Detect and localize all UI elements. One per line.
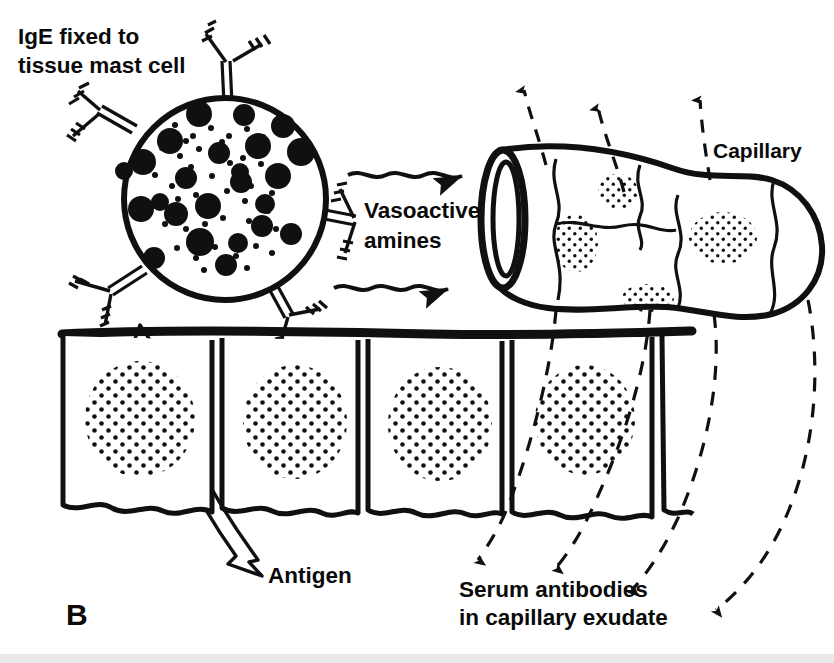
vasoactive-amines-label-line2: amines: [364, 228, 442, 253]
mast-cell-granule: [157, 128, 183, 154]
wavy-arrow: [348, 173, 462, 178]
serum-antibodies-label-line2: in capillary exudate: [459, 605, 668, 630]
mast-cell-granule: [208, 142, 230, 164]
endothelial-nucleus: [598, 174, 638, 210]
endothelial-nucleus: [689, 212, 757, 264]
mast-cell-granule: [115, 162, 133, 180]
epithelial-nucleus: [388, 367, 492, 481]
mast-cell-granule: [186, 101, 212, 127]
mast-cell-granule: [280, 223, 302, 245]
mast-cell-granule: [130, 149, 156, 175]
mast-cell-label-line1: IgE fixed to: [18, 24, 139, 49]
ige-receptor-icon: [268, 283, 327, 347]
panel-label: B: [66, 598, 88, 631]
ige-receptor-icon: [202, 21, 270, 104]
capillary-label: Capillary: [713, 139, 802, 162]
figure-container: IgE fixed to tissue mast cell Vasoactive…: [0, 0, 834, 663]
mast-cell-granule: [143, 247, 165, 269]
mast-cell-granule: [215, 254, 237, 276]
epithelial-nucleus: [535, 365, 635, 475]
wavy-arrow: [334, 286, 448, 291]
mast-cell-granule: [128, 196, 154, 222]
vasoactive-amines-label-line1: Vasoactive: [364, 198, 480, 223]
epithelial-cell: [662, 336, 693, 514]
ige-receptor-icon: [69, 266, 147, 326]
endothelial-nucleus: [554, 214, 598, 272]
mast-cell-granule: [230, 171, 252, 193]
mast-cell-granule: [255, 194, 275, 214]
ige-receptor-icon: [67, 83, 137, 141]
epithelium-group: [62, 331, 693, 518]
hypersensitivity-diagram: IgE fixed to tissue mast cell Vasoactive…: [0, 0, 834, 663]
capillary-lumen-inner: [493, 162, 519, 276]
mast-cell-granule: [164, 202, 188, 226]
efflux-arrow-up: [700, 100, 710, 180]
mast-cell-label-line2: tissue mast cell: [18, 53, 186, 78]
mast-cell-granule: [245, 133, 271, 159]
capillary-group: [481, 90, 822, 317]
mast-cell-granule: [175, 167, 197, 189]
mast-cell-granule: [271, 114, 295, 138]
exudate-arrow: [716, 300, 815, 610]
epithelial-nucleus: [85, 361, 195, 477]
antigen-label: Antigen: [268, 563, 352, 588]
mast-cell-granule: [195, 193, 221, 219]
mast-cell-granule: [251, 215, 273, 237]
epithelium-surface-line: [62, 331, 692, 335]
mast-cell-granule: [287, 138, 315, 166]
endothelial-nucleus: [622, 284, 674, 312]
mast-cell-granule: [228, 233, 248, 253]
epithelial-nucleus: [243, 365, 347, 479]
mast-cell-granule: [233, 104, 255, 126]
mast-cell-granule: [186, 228, 214, 256]
serum-antibodies-label-line1: Serum antibodies: [459, 577, 648, 602]
mast-cell-granule: [265, 163, 291, 189]
